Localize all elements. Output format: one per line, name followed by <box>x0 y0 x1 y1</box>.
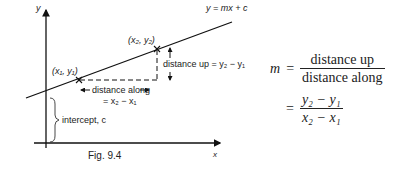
x-axis-label: x <box>213 151 217 159</box>
fraction-numerator: distance up <box>300 52 384 69</box>
fraction-distances: distance up distance along <box>300 52 384 86</box>
distance-along-formula: = x₂ − x₁ <box>103 97 137 106</box>
fraction-denominator: distance along <box>300 69 384 85</box>
intercept-brace <box>50 98 59 142</box>
point-2-label: (x₂, y₂) <box>128 36 155 45</box>
fraction-numerator-2: y₂ − y₁ <box>300 92 343 109</box>
distance-up-label: distance up = y₂ − y₁ <box>163 60 245 69</box>
fraction-coordinates: y₂ − y₁ x₂ − x₁ <box>300 92 343 126</box>
line-equation-label: y = mx + c <box>206 4 248 13</box>
formula-equals: = <box>286 61 294 77</box>
fraction-denominator-2: x₂ − x₁ <box>300 109 343 125</box>
gradient-formula: m = distance up distance along = y₂ − y₁… <box>270 52 385 126</box>
y-axis-label: y <box>36 4 41 13</box>
figure-caption: Fig. 9.4 <box>88 150 121 161</box>
point-1-label: (x₁, y₁) <box>52 67 78 76</box>
distance-along-label: distance along <box>92 86 150 95</box>
intercept-label: intercept, c <box>62 116 106 125</box>
formula-lhs: m <box>270 61 280 77</box>
formula-equals-2: = <box>286 101 294 117</box>
